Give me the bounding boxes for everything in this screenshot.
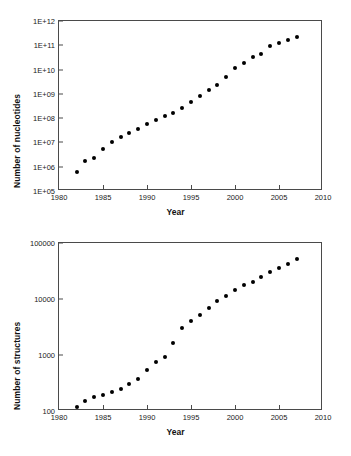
data-point <box>92 156 96 160</box>
y-axis-tick-mark <box>59 21 63 22</box>
data-point <box>83 399 87 403</box>
data-point <box>268 270 272 274</box>
y-axis-tick-label: 1E+08 <box>33 114 59 123</box>
x-axis-tick-label: 2010 <box>315 189 332 202</box>
data-point <box>224 294 228 298</box>
data-point <box>136 377 140 381</box>
y-axis-tick-label: 10000 <box>34 295 59 304</box>
x-axis-tick-label: 1995 <box>183 409 200 422</box>
data-point <box>163 114 167 118</box>
data-point <box>242 283 246 287</box>
y-axis-tick-label: 1E+07 <box>33 138 59 147</box>
data-point <box>189 319 193 323</box>
x-axis-label: Year <box>0 207 351 217</box>
x-axis-tick-label: 1980 <box>51 189 68 202</box>
data-point <box>119 135 123 139</box>
y-axis-tick-mark <box>59 243 63 244</box>
data-point <box>286 38 290 42</box>
chart-panel-nucleotides: Number of nucleotides 1E+051E+061E+071E+… <box>0 0 351 228</box>
x-axis-tick-label: 1980 <box>51 409 68 422</box>
data-point <box>207 88 211 92</box>
data-point <box>145 368 149 372</box>
x-axis-tick-mark <box>147 185 148 189</box>
data-point <box>110 140 114 144</box>
data-point <box>83 159 87 163</box>
data-point <box>154 360 158 364</box>
x-axis-label: Year <box>0 427 351 437</box>
data-point <box>127 382 131 386</box>
x-axis-tick-label: 2000 <box>227 409 244 422</box>
data-point <box>233 66 237 70</box>
y-axis-tick-label: 100000 <box>30 239 59 248</box>
data-point <box>101 393 105 397</box>
x-axis-tick-label: 1990 <box>139 189 156 202</box>
data-point <box>154 118 158 122</box>
chart-panel-structures: Number of structures 1001000100001000001… <box>0 228 351 456</box>
y-axis-tick-label: 1000 <box>38 351 59 360</box>
data-point <box>171 341 175 345</box>
data-point <box>259 275 263 279</box>
data-point <box>92 395 96 399</box>
x-axis-tick-mark <box>235 405 236 409</box>
data-point <box>75 170 79 174</box>
data-point <box>277 266 281 270</box>
x-axis-tick-label: 1995 <box>183 189 200 202</box>
y-axis-tick-label: 1E+12 <box>33 17 59 26</box>
data-point <box>180 326 184 330</box>
x-axis-tick-mark <box>103 405 104 409</box>
x-axis-tick-label: 1985 <box>95 409 112 422</box>
data-point <box>119 387 123 391</box>
data-point <box>215 299 219 303</box>
data-point <box>242 61 246 65</box>
data-point <box>295 35 299 39</box>
data-point <box>145 122 149 126</box>
x-axis-tick-mark <box>147 405 148 409</box>
data-point <box>198 94 202 98</box>
data-point <box>101 147 105 151</box>
data-point <box>277 41 281 45</box>
y-axis-tick-mark <box>59 93 63 94</box>
x-axis-tick-label: 2010 <box>315 409 332 422</box>
data-point <box>171 111 175 115</box>
x-axis-tick-mark <box>279 185 280 189</box>
data-point <box>75 405 79 409</box>
plot-area: 1001000100001000001980198519901995200020… <box>58 242 322 410</box>
y-axis-tick-mark <box>59 355 63 356</box>
data-point <box>259 52 263 56</box>
data-point <box>180 106 184 110</box>
data-point <box>189 100 193 104</box>
data-point <box>224 75 228 79</box>
data-point <box>207 306 211 310</box>
y-axis-label: Number of structures <box>12 322 22 410</box>
y-axis-tick-mark <box>59 166 63 167</box>
x-axis-tick-label: 2000 <box>227 189 244 202</box>
data-point <box>295 257 299 261</box>
plot-area: 1E+051E+061E+071E+081E+091E+101E+111E+12… <box>58 20 322 190</box>
data-point <box>268 44 272 48</box>
data-point <box>215 83 219 87</box>
x-axis-tick-mark <box>191 185 192 189</box>
data-point <box>286 262 290 266</box>
y-axis-tick-mark <box>59 45 63 46</box>
y-axis-tick-mark <box>59 69 63 70</box>
data-point <box>233 288 237 292</box>
y-axis-tick-label: 1E+11 <box>34 41 59 50</box>
x-axis-tick-mark <box>191 405 192 409</box>
data-point <box>251 55 255 59</box>
y-axis-tick-mark <box>59 299 63 300</box>
data-point <box>136 127 140 131</box>
x-axis-tick-mark <box>103 185 104 189</box>
y-axis-tick-label: 1E+09 <box>33 89 59 98</box>
data-point <box>127 131 131 135</box>
y-axis-tick-mark <box>59 142 63 143</box>
data-point <box>251 280 255 284</box>
y-axis-tick-label: 1E+10 <box>33 65 59 74</box>
y-axis-tick-label: 1E+06 <box>33 162 59 171</box>
figure-container: Number of nucleotides 1E+051E+061E+071E+… <box>0 0 351 456</box>
y-axis-tick-mark <box>59 118 63 119</box>
x-axis-tick-label: 2005 <box>271 189 288 202</box>
y-axis-label: Number of nucleotides <box>12 94 22 188</box>
data-point <box>198 313 202 317</box>
data-point <box>163 355 167 359</box>
x-axis-tick-mark <box>279 405 280 409</box>
